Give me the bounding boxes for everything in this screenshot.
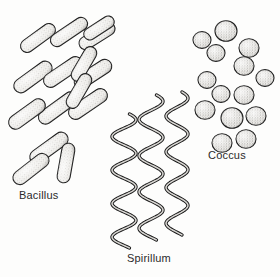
bacteria-shapes-figure: Bacillus Spirillum Coccus — [0, 0, 280, 277]
coccus-cell — [221, 108, 243, 128]
spirillum-filament — [112, 114, 136, 248]
coccus-group — [193, 21, 274, 153]
coccus-cell — [236, 130, 256, 149]
coccus-cell — [215, 21, 237, 41]
coccus-cell — [234, 57, 254, 76]
spirillum-filament — [139, 95, 163, 240]
coccus-cell — [246, 107, 266, 126]
bacillus-group — [6, 14, 118, 188]
spirillum-group — [112, 92, 188, 248]
coccus-cell — [256, 70, 274, 87]
coccus-cell — [207, 45, 225, 62]
coccus-cell — [234, 86, 254, 105]
label-spirillum: Spirillum — [127, 253, 171, 264]
label-bacillus: Bacillus — [19, 190, 59, 201]
illustration-canvas — [0, 0, 280, 277]
spirillum-filament — [166, 92, 188, 235]
coccus-cell — [198, 72, 216, 89]
label-coccus: Coccus — [208, 150, 246, 161]
coccus-cell — [239, 39, 259, 58]
coccus-cell — [195, 101, 215, 120]
coccus-cell — [212, 86, 230, 103]
coccus-cell — [193, 32, 211, 49]
